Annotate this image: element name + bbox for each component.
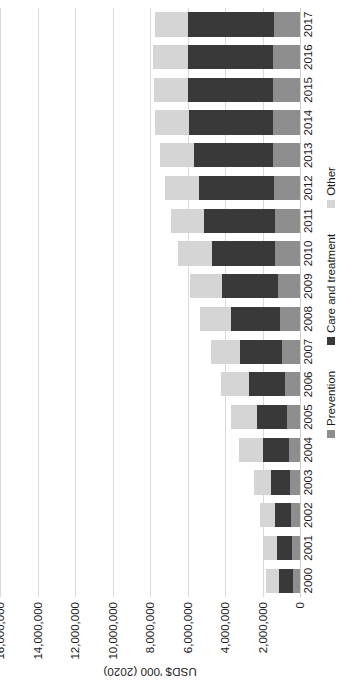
bar-segment-other[interactable] (260, 503, 275, 527)
bar-segment-care-and-treatment[interactable] (231, 307, 280, 331)
legend-label: Other (325, 167, 337, 196)
bar-segment-other[interactable] (231, 405, 257, 429)
legend-item[interactable]: Prevention (325, 371, 337, 438)
bar-segment-other[interactable] (160, 143, 194, 167)
bar-column[interactable] (0, 303, 300, 336)
legend-item[interactable]: Other (325, 167, 337, 208)
bar-segment-prevention[interactable] (274, 176, 300, 200)
y-axis-tick-label: 10,000,000 (107, 602, 119, 660)
bar-segment-prevention[interactable] (273, 45, 300, 69)
axis-baseline (300, 8, 301, 597)
bar-segment-prevention[interactable] (273, 78, 300, 102)
bar-series-group (0, 8, 300, 597)
bar-segment-prevention[interactable] (290, 470, 300, 494)
bar-segment-care-and-treatment[interactable] (257, 405, 287, 429)
legend-swatch-icon (327, 337, 335, 345)
y-axis-tick-labels: 02,000,0004,000,0006,000,0008,000,00010,… (0, 597, 300, 665)
bar-column[interactable] (0, 172, 300, 205)
bar-column[interactable] (0, 433, 300, 466)
bar-segment-care-and-treatment[interactable] (188, 78, 273, 102)
bar-segment-other[interactable] (153, 45, 188, 69)
bar-segment-other[interactable] (155, 12, 189, 36)
bar-segment-other[interactable] (155, 110, 189, 134)
bar-segment-other[interactable] (171, 209, 205, 233)
y-axis-tick-label: 0 (294, 602, 306, 608)
bar-segment-prevention[interactable] (289, 438, 300, 462)
bar-segment-care-and-treatment[interactable] (263, 438, 289, 462)
bar-segment-prevention[interactable] (274, 12, 300, 36)
y-axis-tick-label: 16,000,000 (0, 602, 6, 660)
bar-segment-care-and-treatment[interactable] (212, 241, 276, 265)
bar-column[interactable] (0, 139, 300, 172)
bar-stack (254, 470, 300, 494)
bar-segment-other[interactable] (211, 340, 240, 364)
bar-segment-care-and-treatment[interactable] (279, 569, 293, 593)
bar-segment-prevention[interactable] (273, 110, 300, 134)
bar-segment-care-and-treatment[interactable] (277, 536, 292, 560)
bar-segment-prevention[interactable] (291, 503, 300, 527)
bar-column[interactable] (0, 41, 300, 74)
bar-segment-prevention[interactable] (273, 143, 300, 167)
bar-segment-care-and-treatment[interactable] (199, 176, 274, 200)
bar-segment-care-and-treatment[interactable] (189, 110, 273, 134)
bar-column[interactable] (0, 270, 300, 303)
y-axis-title-text: USD$ '000 (2020) (103, 666, 196, 678)
bar-segment-prevention[interactable] (275, 209, 301, 233)
bar-segment-other[interactable] (190, 274, 222, 298)
bar-stack (155, 110, 300, 134)
bar-segment-prevention[interactable] (285, 372, 300, 396)
bar-column[interactable] (0, 335, 300, 368)
bar-stack (160, 143, 300, 167)
bar-column[interactable] (0, 368, 300, 401)
legend-label: Prevention (325, 371, 337, 426)
bar-segment-prevention[interactable] (278, 274, 301, 298)
bar-segment-care-and-treatment[interactable] (194, 143, 274, 167)
bar-segment-other[interactable] (154, 78, 188, 102)
bar-segment-prevention[interactable] (280, 307, 300, 331)
bar-stack (231, 405, 300, 429)
bar-column[interactable] (0, 204, 300, 237)
bar-segment-other[interactable] (178, 241, 211, 265)
bar-segment-prevention[interactable] (287, 405, 300, 429)
bar-column[interactable] (0, 466, 300, 499)
bar-segment-other[interactable] (221, 372, 249, 396)
bar-segment-care-and-treatment[interactable] (188, 12, 273, 36)
bar-stack (155, 12, 300, 36)
bar-segment-care-and-treatment[interactable] (222, 274, 278, 298)
bar-stack (154, 78, 300, 102)
bar-segment-prevention[interactable] (293, 569, 301, 593)
bar-segment-care-and-treatment[interactable] (204, 209, 274, 233)
bar-segment-care-and-treatment[interactable] (275, 503, 292, 527)
bar-segment-prevention[interactable] (292, 536, 300, 560)
y-axis-tick-label: 2,000,000 (257, 602, 269, 653)
bar-column[interactable] (0, 564, 300, 597)
bar-segment-other[interactable] (254, 470, 271, 494)
bar-segment-other[interactable] (263, 536, 277, 560)
bar-segment-other[interactable] (165, 176, 199, 200)
bar-segment-other[interactable] (239, 438, 262, 462)
bar-segment-care-and-treatment[interactable] (188, 45, 274, 69)
bar-segment-prevention[interactable] (282, 340, 300, 364)
bar-segment-other[interactable] (266, 569, 279, 593)
bar-column[interactable] (0, 106, 300, 139)
y-axis-tick-label: 4,000,000 (219, 602, 231, 653)
bar-stack (211, 340, 300, 364)
rotated-figure-wrapper: USD$ '000 (2020) 02,000,0004,000,0006,00… (0, 0, 349, 687)
bar-segment-other[interactable] (200, 307, 231, 331)
legend-item[interactable]: Care and treatment (325, 234, 337, 345)
bar-column[interactable] (0, 237, 300, 270)
bar-segment-care-and-treatment[interactable] (249, 372, 285, 396)
bar-column[interactable] (0, 401, 300, 434)
bar-stack (221, 372, 300, 396)
bar-segment-care-and-treatment[interactable] (271, 470, 290, 494)
bar-column[interactable] (0, 8, 300, 41)
bar-segment-care-and-treatment[interactable] (240, 340, 282, 364)
bar-column[interactable] (0, 499, 300, 532)
bar-column[interactable] (0, 74, 300, 107)
legend-swatch-icon (327, 430, 335, 438)
bar-stack (190, 274, 300, 298)
bar-segment-prevention[interactable] (275, 241, 300, 265)
bar-column[interactable] (0, 532, 300, 565)
stacked-bar-chart: USD$ '000 (2020) 02,000,0004,000,0006,00… (0, 0, 349, 687)
bar-stack (178, 241, 300, 265)
